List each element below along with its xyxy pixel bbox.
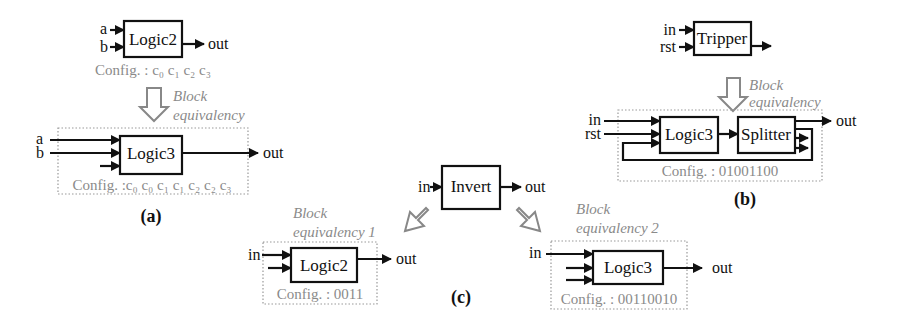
invert-block-label: Invert [451, 177, 492, 196]
panel-a: a b Logic2 out Config. : c₀ c₁ c₂ c₃ Blo… [36, 20, 284, 227]
output-label-out: out [396, 250, 417, 267]
panel-c-equivalency-1: Block equivalency 1 in Logic2 out Config… [248, 205, 417, 304]
input-label-b: b [100, 38, 108, 55]
logic2-block-label: Logic2 [129, 30, 177, 49]
splitter-block-label: Splitter [741, 125, 791, 144]
output-label-out: out [712, 259, 733, 276]
block-equivalency-2-label-line1: Block [576, 201, 610, 217]
config-text: Config. : 0011 [277, 286, 364, 302]
caption-a: (a) [141, 206, 162, 227]
block-equivalency-diagram: a b Logic2 out Config. : c₀ c₁ c₂ c₃ Blo… [0, 0, 898, 324]
panel-c: in Invert out Block equivalency 1 in Log… [248, 166, 733, 309]
config-text: Config. :c₀ c₀ c₁ c₁ c₂ c₂ c₃ [72, 177, 231, 193]
output-label-out: out [525, 178, 546, 195]
panel-a-equivalent: a b Logic3 out Config. :c₀ c₀ c₁ c₁ c₂ c… [36, 128, 284, 194]
logic3-block-label: Logic3 [604, 258, 652, 277]
input-label-in: in [418, 178, 430, 195]
block-equivalency-2-label-line2: equivalency 2 [576, 220, 659, 236]
config-text: Config. : 00110010 [561, 291, 678, 307]
panel-a-original: a b Logic2 out Config. : c₀ c₁ c₂ c₃ [95, 20, 229, 78]
panel-b: in rst Tripper Block equivalency in rst … [585, 21, 857, 210]
panel-b-equivalent: in rst Logic3 Splitter out Config. : 010… [585, 110, 857, 181]
input-label-rst: rst [585, 125, 602, 142]
block-equivalency-label-line1: Block [173, 88, 207, 104]
block-equivalency-2-diagonal-arrow-icon [517, 208, 540, 231]
caption-b: (b) [734, 189, 756, 210]
output-label-out: out [263, 144, 284, 161]
logic2-block-label: Logic2 [300, 256, 348, 275]
input-label-in: in [664, 21, 676, 38]
output-label-out: out [836, 112, 857, 129]
caption-c: (c) [451, 287, 471, 308]
block-equivalency-down-arrow-icon [719, 78, 747, 111]
config-text: Config. : 01001100 [662, 163, 779, 179]
block-equivalency-1-label-line2: equivalency 1 [293, 224, 376, 240]
tripper-block-label: Tripper [697, 29, 748, 48]
input-label-in: in [248, 246, 260, 263]
output-label-out: out [208, 35, 229, 52]
input-label-a: a [100, 20, 107, 37]
block-equivalency-1-label-line1: Block [293, 205, 327, 221]
panel-c-equivalency-2: Block equivalency 2 in Logic3 out Config… [529, 201, 733, 309]
panel-b-original: in rst Tripper [660, 21, 771, 55]
logic3-block-label: Logic3 [665, 125, 713, 144]
block-equivalency-label-line2: equivalency [173, 107, 245, 123]
input-label-b: b [36, 144, 44, 161]
block-equivalency-label-line2: equivalency [749, 94, 821, 110]
input-label-in: in [529, 244, 541, 261]
block-equivalency-down-arrow-icon [140, 88, 168, 121]
input-label-rst: rst [660, 38, 677, 55]
panel-c-original: in Invert out [418, 166, 546, 209]
config-text: Config. : c₀ c₁ c₂ c₃ [95, 62, 211, 78]
block-equivalency-label-line1: Block [749, 77, 783, 93]
logic3-block-label: Logic3 [127, 144, 175, 163]
block-equivalency-1-diagonal-arrow-icon [405, 208, 428, 231]
